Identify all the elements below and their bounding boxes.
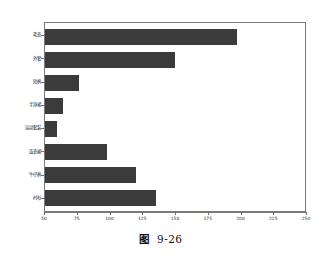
y-axis-label-row: 毛衣 (14, 28, 44, 44)
y-axis-label-row: 半身裙 (14, 97, 44, 113)
bar (45, 121, 57, 137)
bar-row (45, 75, 305, 91)
x-axis-tick-mark (77, 212, 78, 215)
caption-label: 图 (139, 233, 150, 245)
bar (45, 167, 136, 183)
x-axis-tick-mark (142, 212, 143, 215)
x-axis-tick-label: 250 (302, 217, 310, 221)
bar (45, 190, 156, 206)
x-axis-tick-label: 100 (105, 217, 113, 221)
bar (45, 98, 63, 114)
y-axis-label-row: 外套 (14, 51, 44, 67)
y-axis-label-row: 连衣裙 (14, 144, 44, 160)
x-axis-tick-label: 50 (41, 217, 47, 221)
figure-caption: 图9-26 (0, 231, 322, 246)
bar-row (45, 144, 305, 160)
bar-row (45, 52, 305, 68)
y-axis-label-row: 运动套装 (14, 121, 44, 137)
x-axis-tick-mark (110, 212, 111, 215)
x-axis-tick-label: 125 (138, 217, 146, 221)
x-axis-tick-label: 175 (204, 217, 212, 221)
bar-row (45, 29, 305, 45)
bar (45, 29, 237, 45)
x-axis-tick-label: 75 (74, 217, 80, 221)
x-axis-tick-mark (208, 212, 209, 215)
bar-row (45, 167, 305, 183)
y-axis-label-row: 牛仔裤 (14, 167, 44, 183)
bar (45, 75, 79, 91)
x-axis-tick-mark (306, 212, 307, 215)
x-axis-tick-label: 225 (269, 217, 277, 221)
x-axis-tick-label: 150 (171, 217, 179, 221)
y-axis-label-row: 衬衫 (14, 190, 44, 206)
bar (45, 144, 107, 160)
x-axis-tick-mark (175, 212, 176, 215)
bar-row (45, 98, 305, 114)
y-axis-labels: 毛衣 外套 短裤 半身裙 运动套装 连衣裙 (14, 22, 44, 212)
x-axis-tick-mark (241, 212, 242, 215)
y-axis-label-row: 短裤 (14, 74, 44, 90)
bar-row (45, 121, 305, 137)
plot-area (44, 22, 306, 212)
bar-row (45, 190, 305, 206)
bar-chart: 毛衣 外套 短裤 半身裙 运动套装 连衣裙 (14, 18, 306, 218)
x-axis-tick-label: 200 (236, 217, 244, 221)
figure-container: 毛衣 外套 短裤 半身裙 运动套装 连衣裙 (0, 0, 322, 261)
x-axis-tick-mark (273, 212, 274, 215)
bar (45, 52, 175, 68)
x-axis-tick-mark (44, 212, 45, 215)
caption-number: 9-26 (157, 233, 183, 245)
bar-series (45, 23, 305, 211)
